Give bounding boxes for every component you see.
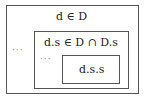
middle-ellipsis: ··· [40,55,52,64]
middle-label: d.s ∈ D ∩ D.s [44,37,118,48]
outer-ellipsis: ··· [12,46,24,55]
outer-label: d ∈ D [56,11,87,22]
inner-label: d.s.s [79,64,104,75]
